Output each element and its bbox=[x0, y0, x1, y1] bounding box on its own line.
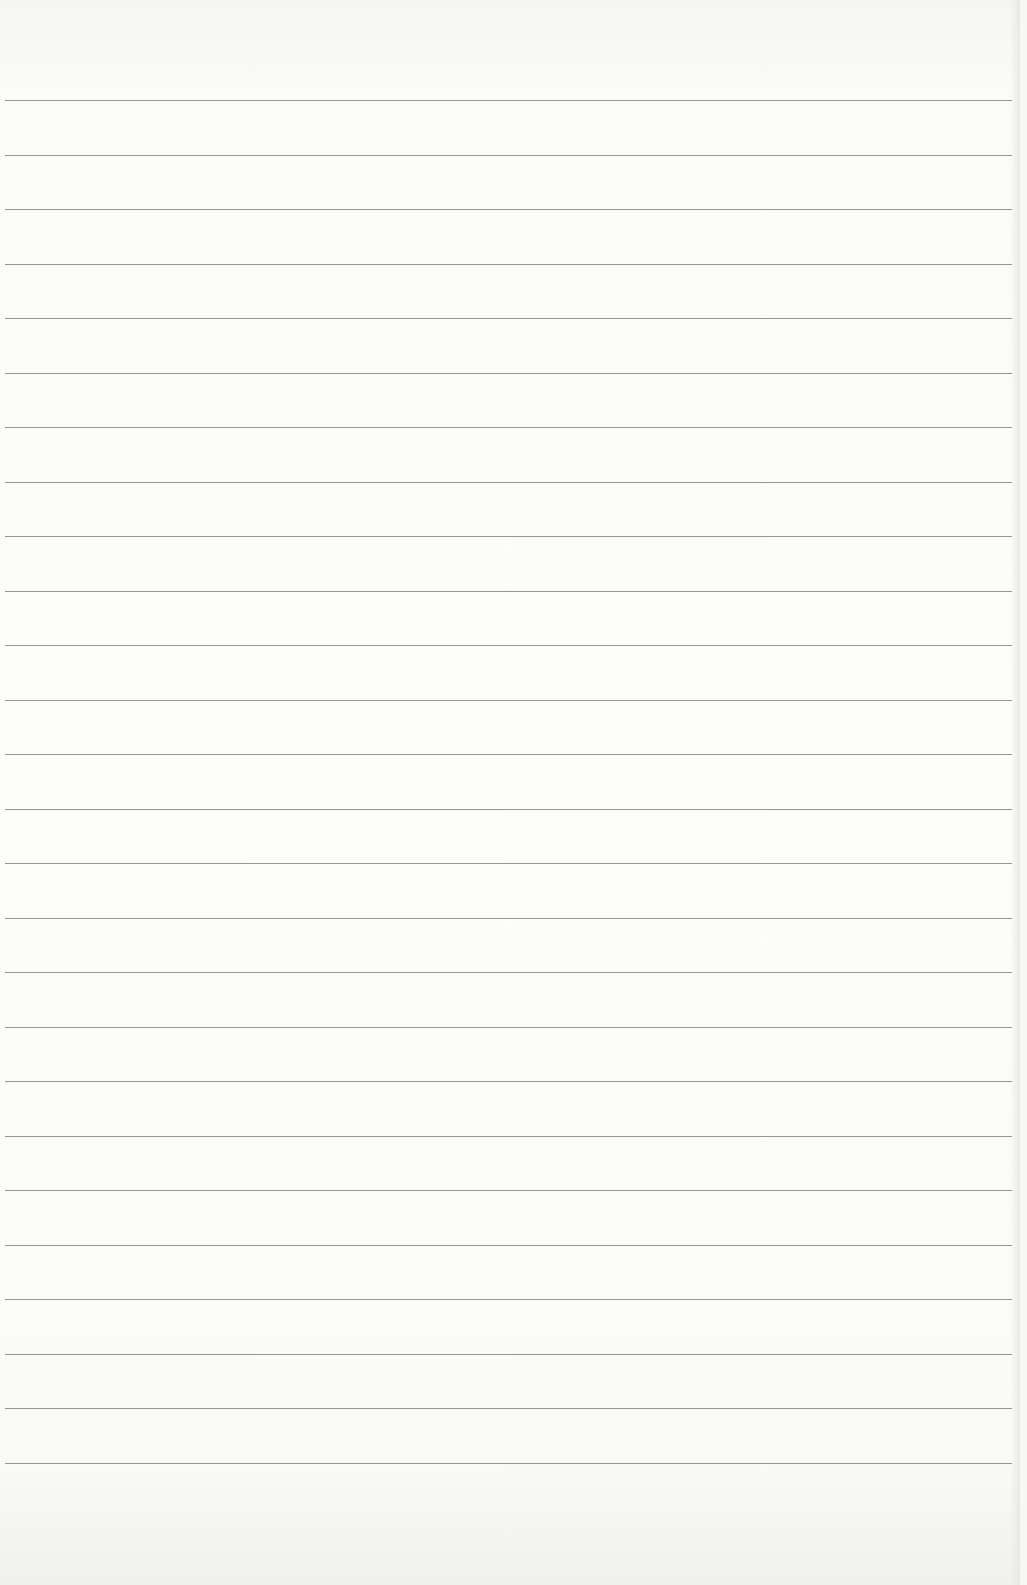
ruled-line bbox=[5, 918, 1012, 919]
paper-edge-shadow bbox=[1010, 0, 1020, 1585]
ruled-line bbox=[5, 373, 1012, 374]
ruled-line bbox=[5, 1245, 1012, 1246]
ruled-line bbox=[5, 1190, 1012, 1191]
ruled-line bbox=[5, 318, 1012, 319]
ruled-line bbox=[5, 1299, 1012, 1300]
ruled-paper-sheet bbox=[0, 0, 1020, 1585]
ruled-line bbox=[5, 1136, 1012, 1137]
ruled-line bbox=[5, 972, 1012, 973]
ruled-line bbox=[5, 1354, 1012, 1355]
ruled-line bbox=[5, 700, 1012, 701]
ruled-line bbox=[5, 536, 1012, 537]
ruled-line bbox=[5, 155, 1012, 156]
ruled-line bbox=[5, 1081, 1012, 1082]
ruled-line bbox=[5, 264, 1012, 265]
ruled-line bbox=[5, 1463, 1012, 1464]
ruled-line bbox=[5, 482, 1012, 483]
ruled-line bbox=[5, 209, 1012, 210]
ruled-line bbox=[5, 1408, 1012, 1409]
ruled-line bbox=[5, 645, 1012, 646]
ruled-line bbox=[5, 754, 1012, 755]
ruled-line bbox=[5, 427, 1012, 428]
ruled-line bbox=[5, 1027, 1012, 1028]
ruled-line bbox=[5, 809, 1012, 810]
ruled-line bbox=[5, 863, 1012, 864]
ruled-line bbox=[5, 591, 1012, 592]
ruled-line bbox=[5, 100, 1012, 101]
